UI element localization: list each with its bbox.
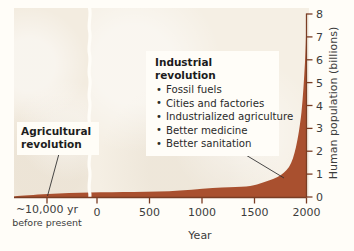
x-axis-title: Year xyxy=(188,229,211,242)
y-tick-label-8: 8 xyxy=(316,8,323,21)
x-tick-label-0: 0 xyxy=(94,206,101,219)
x-tick-label-prehistory: ~10,000 yr before present xyxy=(12,203,82,229)
industrial-callout-list: Fossil fuels Cities and factories Indust… xyxy=(153,83,274,150)
prehistory-label-line2: before present xyxy=(12,217,82,229)
industrial-bullet-better-sanitation: Better sanitation xyxy=(153,137,274,150)
prehistory-label-line1: ~10,000 yr xyxy=(16,203,78,216)
y-tick-label-5: 5 xyxy=(316,76,323,89)
y-tick-label-3: 3 xyxy=(316,122,323,135)
x-axis-ticks xyxy=(47,198,307,204)
y-tick-label-6: 6 xyxy=(316,53,323,66)
industrial-bullet-fossil-fuels: Fossil fuels xyxy=(153,83,274,96)
agricultural-leader-line xyxy=(48,150,61,196)
axis-break-line xyxy=(89,8,90,198)
y-tick-label-4: 4 xyxy=(316,99,323,112)
y-tick-label-0: 0 xyxy=(316,191,323,204)
area-fill-left-segment xyxy=(14,193,90,197)
industrial-callout-title: Industrial revolution xyxy=(155,56,274,81)
y-tick-label-2: 2 xyxy=(316,145,323,158)
population-growth-figure: 8 7 6 5 4 3 2 1 0 0 500 1000 1500 2000 ~… xyxy=(0,0,354,251)
industrial-bullet-better-medicine: Better medicine xyxy=(153,124,274,137)
x-tick-label-500: 500 xyxy=(139,206,160,219)
y-tick-label-7: 7 xyxy=(316,30,323,43)
x-tick-label-1500: 1500 xyxy=(241,206,269,219)
industrial-bullet-cities-and-factories: Cities and factories xyxy=(153,97,274,110)
y-axis-title: Human population (billions) xyxy=(327,27,340,179)
annotation-industrial-revolution: Industrial revolution Fossil fuels Citie… xyxy=(146,51,279,156)
x-tick-label-1000: 1000 xyxy=(188,206,216,219)
agricultural-title-line1: Agricultural xyxy=(21,125,95,138)
y-tick-label-1: 1 xyxy=(316,168,323,181)
annotation-agricultural-revolution: Agricultural revolution xyxy=(17,122,99,155)
industrial-bullet-industrialized-agriculture: Industrialized agriculture xyxy=(153,110,274,123)
x-tick-label-2000: 2000 xyxy=(293,206,321,219)
y-axis-ticks xyxy=(307,14,313,197)
agricultural-title-line2: revolution xyxy=(21,138,95,151)
